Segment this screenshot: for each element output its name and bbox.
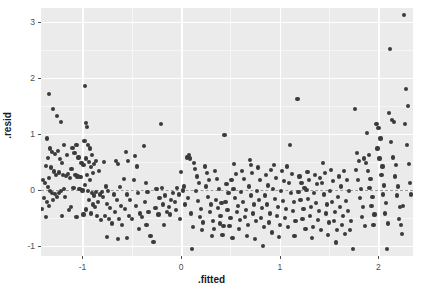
scatter-point	[290, 172, 294, 176]
scatter-point	[258, 178, 262, 182]
scatter-point	[217, 187, 221, 191]
scatter-point	[305, 170, 309, 174]
scatter-point	[235, 210, 239, 214]
scatter-point	[227, 224, 231, 228]
scatter-point	[232, 162, 236, 166]
scatter-point	[324, 211, 328, 215]
scatter-point	[291, 209, 295, 213]
scatter-point	[112, 192, 116, 196]
scatter-point	[293, 219, 297, 223]
scatter-point	[85, 173, 89, 177]
scatter-point	[357, 159, 361, 163]
scatter-point	[269, 168, 273, 172]
gridline-x-minor	[329, 8, 330, 256]
scatter-point	[379, 173, 383, 177]
scatter-point	[353, 107, 357, 111]
scatter-point	[174, 208, 178, 212]
scatter-point	[331, 179, 335, 183]
scatter-point	[63, 195, 67, 199]
scatter-point	[300, 217, 304, 221]
scatter-point	[345, 178, 349, 182]
scatter-point	[323, 171, 327, 175]
scatter-point	[354, 168, 358, 172]
scatter-point	[371, 223, 375, 227]
scatter-point	[128, 198, 132, 202]
scatter-point	[199, 207, 203, 211]
scatter-point	[340, 223, 344, 227]
gridline-y-minor	[41, 218, 413, 219]
scatter-point	[82, 139, 86, 143]
scatter-point	[265, 202, 269, 206]
scatter-point	[335, 228, 339, 232]
scatter-point	[295, 97, 299, 101]
gridline-y-major	[41, 22, 413, 23]
scatter-point	[163, 193, 167, 197]
scatter-point	[292, 200, 296, 204]
scatter-point	[204, 184, 208, 188]
scatter-point	[47, 204, 51, 208]
scatter-point	[387, 111, 391, 115]
scatter-point	[348, 228, 352, 232]
scatter-point	[317, 209, 321, 213]
scatter-point	[189, 211, 193, 215]
scatter-point	[407, 162, 411, 166]
scatter-point	[261, 244, 265, 248]
gridline-y-major	[41, 246, 413, 247]
scatter-point	[97, 169, 101, 173]
scatter-point	[230, 236, 234, 240]
scatter-point	[314, 201, 318, 205]
x-tick-label: 0	[179, 262, 184, 272]
scatter-point	[272, 163, 276, 167]
scatter-point	[51, 107, 55, 111]
x-tick-mark	[181, 256, 182, 259]
scatter-point	[406, 104, 410, 108]
scatter-point	[168, 212, 172, 216]
scatter-point	[223, 200, 227, 204]
scatter-point	[123, 207, 127, 211]
scatter-point	[67, 208, 71, 212]
y-tick-label: -1	[27, 241, 35, 251]
scatter-point	[344, 199, 348, 203]
scatter-point	[145, 190, 149, 194]
gridline-x-major	[82, 8, 83, 256]
scatter-point	[137, 227, 141, 231]
scatter-point	[391, 155, 395, 159]
scatter-point	[289, 191, 293, 195]
y-tick-label: 2	[30, 73, 35, 83]
scatter-point	[303, 227, 307, 231]
scatter-point	[328, 189, 332, 193]
x-tick-label: 1	[277, 262, 282, 272]
scatter-point	[283, 216, 287, 220]
scatter-point	[380, 164, 384, 168]
scatter-point	[203, 164, 207, 168]
scatter-point	[101, 195, 105, 199]
x-tick-label: -1	[79, 262, 87, 272]
scatter-point	[140, 215, 144, 219]
scatter-point	[400, 232, 404, 236]
scatter-point	[212, 227, 216, 231]
scatter-point	[92, 193, 96, 197]
scatter-point	[367, 153, 371, 157]
scatter-point	[177, 192, 181, 196]
gridline-y-minor	[41, 106, 413, 107]
scatter-point	[260, 206, 264, 210]
x-tick-mark	[280, 256, 281, 259]
scatter-point	[120, 223, 124, 227]
scatter-point	[238, 218, 242, 222]
scatter-point	[347, 189, 351, 193]
scatter-point	[282, 179, 286, 183]
scatter-point	[382, 183, 386, 187]
scatter-point	[325, 202, 329, 206]
scatter-point	[365, 131, 369, 135]
scatter-point	[360, 215, 364, 219]
scatter-point	[312, 191, 316, 195]
scatter-point	[117, 217, 121, 221]
scatter-point	[408, 181, 412, 185]
scatter-point	[132, 178, 136, 182]
scatter-point	[62, 187, 66, 191]
scatter-point	[259, 216, 263, 220]
scatter-point	[313, 173, 317, 177]
scatter-point	[250, 171, 254, 175]
scatter-point	[115, 198, 119, 202]
scatter-point	[396, 184, 400, 188]
